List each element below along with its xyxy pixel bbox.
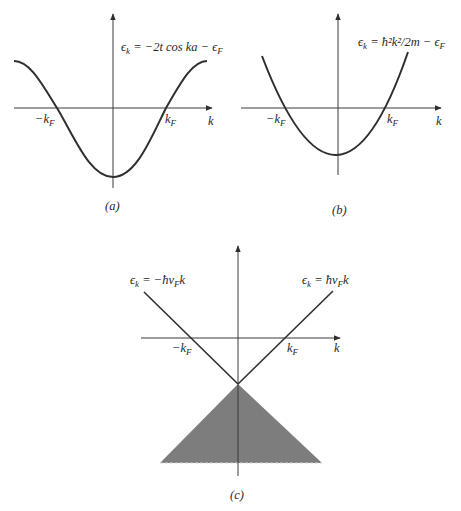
panel-c-tick-neg-kf: −kF <box>172 341 192 357</box>
panel-a-tick-neg-kf: −kF <box>35 112 55 128</box>
panel-c: ϵk = −ħvFk ϵk = ħvFk −kF kF k (c) <box>130 246 349 502</box>
panel-a-equation: ϵk = −2t cos ka − ϵF <box>121 40 223 56</box>
panel-c-equation-right: ϵk = ħvFk <box>302 273 349 289</box>
panel-a-caption: (a) <box>105 199 120 213</box>
panel-c-filled-triangle <box>160 384 322 463</box>
panel-a: ϵk = −2t cos ka − ϵF −kF kF k (a) <box>14 14 223 213</box>
panel-c-x-label: k <box>334 341 340 355</box>
panel-c-caption: (c) <box>230 488 244 502</box>
panel-c-tick-kf: kF <box>287 341 299 357</box>
panel-b-x-label: k <box>436 114 442 128</box>
panel-c-equation-left: ϵk = −ħvFk <box>130 273 185 289</box>
panel-a-x-label: k <box>208 114 214 128</box>
panel-b-parabola-curve <box>262 52 408 155</box>
figure-canvas: ϵk = −2t cos ka − ϵF −kF kF k (a) ϵk = ħ… <box>0 0 461 511</box>
panel-b-tick-kf: kF <box>387 112 399 128</box>
panel-b: ϵk = ħ²k²/2m − ϵF −kF kF k (b) <box>241 14 446 217</box>
panel-b-equation: ϵk = ħ²k²/2m − ϵF <box>358 35 446 51</box>
panel-a-tick-kf: kF <box>165 112 177 128</box>
panel-b-tick-neg-kf: −kF <box>266 112 286 128</box>
panel-b-caption: (b) <box>332 203 347 217</box>
